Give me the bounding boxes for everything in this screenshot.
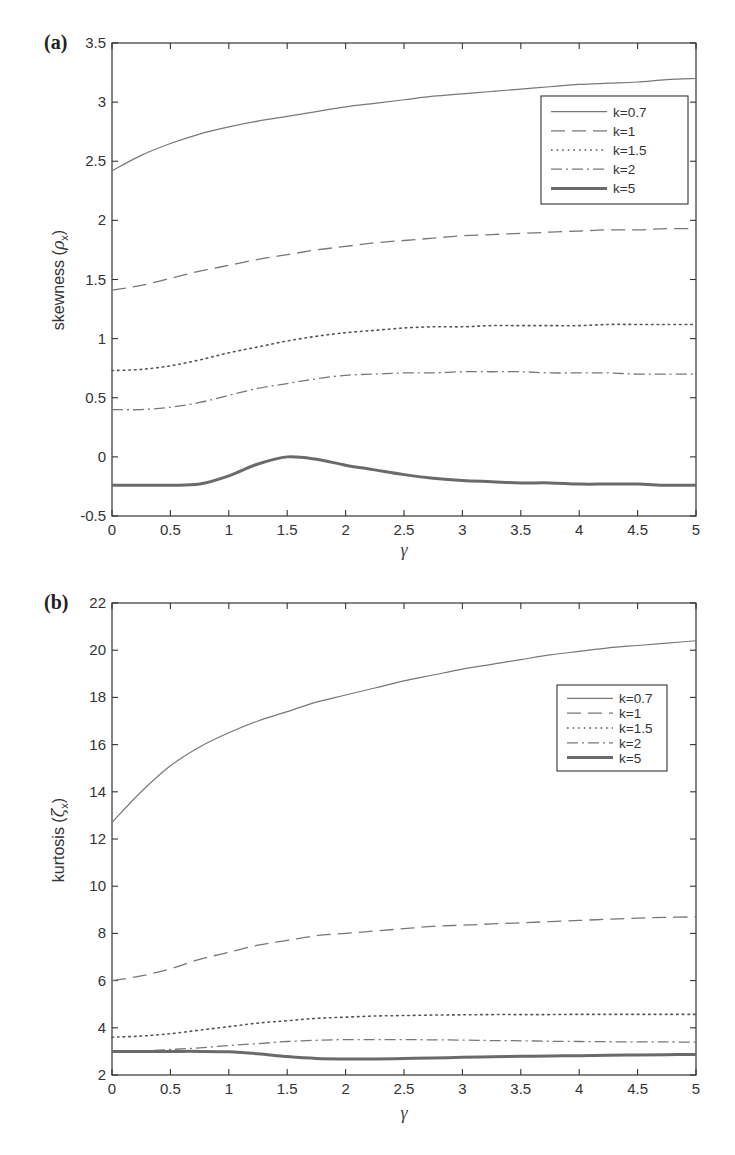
x-tick-label: 4 [575,521,583,538]
legend-label: k=5 [619,751,641,766]
legend-label: k=1 [613,124,635,139]
y-tick-label: 22 [89,594,106,611]
axis-ticks-b [112,603,696,1075]
x-tick-label: 2.5 [394,521,415,538]
series-line-k-1 [112,229,696,291]
series-line-k-1 [112,917,696,981]
x-tick-label: 0 [108,521,116,538]
legend-label: k=5 [613,181,635,196]
series-line-k-2 [112,1040,696,1052]
legend-label: k=1.5 [619,721,652,736]
legend-label: k=1 [619,706,641,721]
y-tick-label: 1.5 [85,271,106,288]
x-tick-label: 5 [692,521,700,538]
x-axis-label-b: γ [400,1103,408,1123]
y-tick-label: 0.5 [85,389,106,406]
y-tick-label: 3 [98,93,106,110]
panel-label-a: (a) [44,31,67,54]
y-tick-label: 2.5 [85,152,106,169]
y-tick-label: 20 [89,641,106,658]
x-tick-label: 3.5 [510,521,531,538]
x-axis-label-a: γ [400,540,408,560]
axis-tick-labels-b: 00.511.522.533.544.55246810121416182022 [89,594,700,1097]
legend-label: k=0.7 [613,105,646,120]
y-axis-label-b: kurtosis (ζx) [49,798,70,882]
x-tick-label: 4.5 [627,521,648,538]
y-tick-label: 16 [89,736,106,753]
legend-label: k=2 [619,736,641,751]
y-tick-label: 0 [98,448,106,465]
x-tick-label: 0.5 [160,1080,181,1097]
x-tick-label: 4.5 [627,1080,648,1097]
series-line-k-1-5 [112,1014,696,1037]
x-tick-label: 1 [225,1080,233,1097]
y-tick-label: 18 [89,688,106,705]
y-tick-label: 4 [98,1019,106,1036]
x-tick-label: 3.5 [510,1080,531,1097]
panel-label-b: (b) [44,591,68,614]
y-tick-label: 3.5 [85,34,106,51]
x-tick-label: 2.5 [394,1080,415,1097]
legend-a: k=0.7k=1k=1.5k=2k=5 [541,96,688,204]
y-tick-label: 14 [89,783,106,800]
legend-label: k=1.5 [613,143,646,158]
legend-label: k=2 [613,162,635,177]
y-tick-label: 2 [98,1066,106,1083]
y-tick-label: 10 [89,877,106,894]
x-tick-label: 4 [575,1080,583,1097]
series-line-k-2 [112,372,696,410]
x-tick-label: 5 [692,1080,700,1097]
x-tick-label: 1.5 [277,1080,298,1097]
x-tick-label: 1.5 [277,521,298,538]
y-axis-label-a: skewness (ρx) [49,230,70,330]
y-tick-label: 12 [89,830,106,847]
y-tick-label: 1 [98,330,106,347]
x-tick-label: 0.5 [160,521,181,538]
x-tick-label: 2 [341,1080,349,1097]
x-tick-label: 2 [341,521,349,538]
panel-a-skewness-chart: (a) 00.511.522.533.544.55-0.500.511.522.… [44,31,700,560]
series-line-k-5 [112,457,696,486]
plot-area-b [112,603,696,1075]
x-tick-label: 1 [225,521,233,538]
y-tick-label: -0.5 [80,507,106,524]
legend-b: k=0.7k=1k=1.5k=2k=5 [557,685,667,771]
x-tick-label: 3 [458,1080,466,1097]
x-tick-label: 0 [108,1080,116,1097]
y-tick-label: 8 [98,924,106,941]
x-tick-label: 3 [458,521,466,538]
panel-b-kurtosis-chart: (b) 00.511.522.533.544.55246810121416182… [44,591,700,1123]
series-line-k-5 [112,1051,696,1059]
y-tick-label: 6 [98,972,106,989]
series-line-k-1-5 [112,324,696,370]
y-tick-label: 2 [98,211,106,228]
legend-label: k=0.7 [619,691,652,706]
figure: (a) 00.511.522.533.544.55-0.500.511.522.… [0,0,735,1155]
